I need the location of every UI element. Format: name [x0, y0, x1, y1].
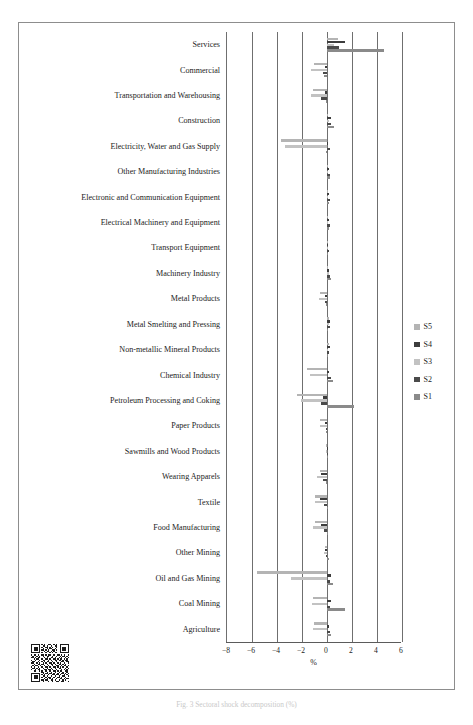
bar-S5 [307, 368, 327, 370]
bar-group [227, 622, 401, 636]
x-tick-label: 6 [399, 646, 403, 655]
bar-S4 [327, 574, 331, 576]
bar-group [227, 368, 401, 382]
category-label: Agriculture [183, 625, 220, 634]
bar-group [227, 444, 401, 458]
legend-item-S5[interactable]: S5 [414, 318, 460, 336]
category-label: Textile [198, 498, 220, 507]
bar-group [227, 419, 401, 433]
legend-swatch-icon [414, 359, 420, 365]
chart-legend: S5S4S3S2S1 [414, 318, 460, 406]
bar-S1 [327, 227, 329, 229]
bar-S1 [324, 75, 327, 77]
grouped-bar-chart: ServicesCommercialTransportation and War… [0, 0, 473, 725]
legend-swatch-icon [414, 377, 420, 383]
legend-item-S2[interactable]: S2 [414, 371, 460, 389]
bar-group [227, 114, 401, 128]
bar-group [227, 241, 401, 255]
bar-S1 [327, 126, 334, 128]
bar-S3 [310, 374, 327, 376]
bar-S1 [326, 481, 327, 483]
bar-S1 [327, 608, 345, 610]
bar-group [227, 394, 401, 408]
category-label: Wearing Apparels [162, 472, 220, 481]
legend-label: S3 [424, 357, 432, 366]
bar-S1 [327, 202, 329, 204]
bar-S5 [314, 622, 327, 624]
category-label: Paper Products [171, 421, 220, 430]
bar-group [227, 190, 401, 204]
bar-group [227, 546, 401, 560]
category-label: Electricity, Water and Gas Supply [111, 142, 220, 151]
bar-group [227, 216, 401, 230]
bar-S4 [327, 371, 329, 373]
bar-S4 [327, 625, 329, 627]
bar-S1 [327, 329, 328, 331]
category-label: Electrical Machinery and Equipment [101, 218, 220, 227]
category-label: Coal Mining [179, 599, 220, 608]
bar-group [227, 571, 401, 585]
bar-S3 [285, 145, 327, 147]
bar-S1 [327, 634, 331, 636]
bar-group [227, 343, 401, 357]
bar-S1 [327, 532, 328, 534]
bar-S1 [326, 151, 327, 153]
category-label: Non-metallic Mineral Products [119, 345, 220, 354]
gridline-6 [402, 32, 403, 642]
bar-S3 [312, 603, 327, 605]
x-tick-label: 4 [374, 646, 378, 655]
bar-group [227, 470, 401, 484]
qr-code-icon [31, 644, 69, 682]
legend-item-S4[interactable]: S4 [414, 336, 460, 354]
bar-group [227, 38, 401, 52]
legend-label: S2 [424, 375, 432, 384]
bar-S1 [326, 303, 327, 305]
bar-group [227, 165, 401, 179]
bar-S1 [327, 456, 328, 458]
bar-S1 [327, 278, 331, 280]
category-label: Other Mining [176, 548, 220, 557]
bar-S3 [313, 628, 327, 630]
bar-group [227, 292, 401, 306]
category-label: Metal Smelting and Pressing [127, 320, 220, 329]
x-axis-line [226, 642, 401, 643]
bar-S1 [327, 380, 333, 382]
bar-S1 [327, 405, 354, 407]
bar-group [227, 63, 401, 77]
plot-inner [227, 32, 401, 642]
category-labels: ServicesCommercialTransportation and War… [30, 32, 220, 642]
bar-S1 [327, 176, 330, 178]
legend-swatch-icon [414, 324, 420, 330]
bar-S1 [327, 354, 328, 356]
x-tick-label: −2 [297, 646, 305, 655]
category-label: Electronic and Communication Equipment [81, 193, 220, 202]
bar-group [227, 495, 401, 509]
figure-caption: Fig. 3 Sectoral shock decomposition (%) [0, 700, 473, 709]
bar-S1 [326, 100, 328, 102]
bar-S2 [327, 148, 330, 150]
bar-group [227, 317, 401, 331]
bar-S3 [291, 577, 327, 579]
bar-S1 [327, 583, 333, 585]
category-label: Commercial [180, 66, 220, 75]
legend-item-S1[interactable]: S1 [414, 388, 460, 406]
category-label: Sawmills and Wood Products [125, 447, 220, 456]
legend-swatch-icon [414, 394, 420, 400]
bar-S4 [327, 142, 328, 144]
bar-group [227, 521, 401, 535]
bar-group [227, 89, 401, 103]
category-label: Other Manufacturing Industries [118, 167, 221, 176]
category-label: Petroleum Processing and Coking [110, 396, 220, 405]
bar-S4 [327, 600, 331, 602]
bar-S1 [327, 253, 328, 255]
x-tick-label: 0 [324, 646, 328, 655]
bar-group [227, 139, 401, 153]
bar-S4 [327, 447, 328, 449]
category-label: Services [193, 40, 220, 49]
legend-item-S3[interactable]: S3 [414, 353, 460, 371]
x-tick-label: −6 [247, 646, 255, 655]
bar-S1 [327, 558, 329, 560]
bar-S1 [327, 49, 384, 51]
bar-group [227, 597, 401, 611]
category-label: Food Manufacturing [153, 523, 220, 532]
